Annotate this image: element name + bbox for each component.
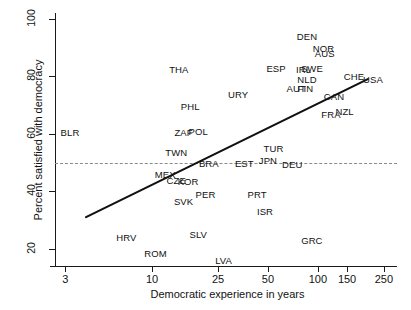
point-label-che: CHE — [344, 71, 364, 82]
x-tick-label-25: 25 — [198, 273, 238, 285]
point-label-svk: SVK — [174, 196, 193, 207]
x-tick-250 — [384, 266, 385, 272]
scatter-plot-figure: Percent satisfied with democracy Democra… — [0, 0, 411, 310]
y-tick-label-80: 80 — [25, 60, 37, 90]
point-label-tur: TUR — [264, 143, 284, 154]
point-label-nzl: NZL — [336, 105, 354, 116]
point-label-twn: TWN — [165, 147, 187, 158]
x-tick-100 — [318, 266, 319, 272]
y-tick-label-100: 100 — [25, 3, 37, 33]
point-label-fin: FIN — [298, 82, 314, 93]
regression-fit-line — [0, 0, 411, 310]
point-label-pol: POL — [189, 125, 208, 136]
y-tick-label-40: 40 — [25, 175, 37, 205]
x-axis-line — [50, 266, 397, 267]
y-axis-line — [55, 13, 56, 266]
y-tick-label-wrap: 20 — [16, 242, 46, 256]
point-label-deu: DEU — [282, 158, 302, 169]
point-label-lva: LVA — [215, 255, 232, 266]
point-label-swe: SWE — [301, 62, 323, 73]
point-label-blr: BLR — [61, 127, 80, 138]
y-tick-100 — [49, 19, 55, 20]
y-tick-label-wrap: 40 — [16, 184, 46, 198]
y-tick-label-wrap: 100 — [16, 12, 46, 26]
x-tick-25 — [218, 266, 219, 272]
x-tick-label-150: 150 — [327, 273, 367, 285]
point-label-slv: SLV — [189, 229, 207, 240]
x-tick-label-3: 3 — [45, 273, 85, 285]
point-label-kor: KOR — [178, 176, 199, 187]
x-tick-150 — [347, 266, 348, 272]
y-tick-80 — [49, 76, 55, 77]
point-label-aus: AUS — [315, 48, 335, 59]
y-tick-20 — [49, 249, 55, 250]
point-label-can: CAN — [324, 91, 344, 102]
point-label-rom: ROM — [144, 248, 166, 259]
point-label-jpn: JPN — [259, 154, 277, 165]
y-tick-label-wrap: 60 — [16, 127, 46, 141]
x-tick-label-250: 250 — [364, 273, 404, 285]
y-tick-label-wrap: 80 — [16, 69, 46, 83]
y-tick-label-20: 20 — [25, 233, 37, 263]
point-label-prt: PRT — [248, 189, 267, 200]
point-label-per: PER — [196, 189, 216, 200]
point-label-den: DEN — [297, 31, 317, 42]
x-tick-3 — [65, 266, 66, 272]
point-label-esp: ESP — [266, 62, 285, 73]
reference-line-50-percent — [55, 163, 397, 164]
point-label-grc: GRC — [301, 235, 322, 246]
y-tick-40 — [49, 191, 55, 192]
point-label-usa: USA — [363, 74, 383, 85]
x-tick-label-10: 10 — [132, 273, 172, 285]
point-label-est: EST — [235, 157, 254, 168]
point-label-isr: ISR — [257, 206, 273, 217]
y-tick-60 — [49, 134, 55, 135]
point-label-ury: URY — [228, 88, 248, 99]
x-tick-10 — [152, 266, 153, 272]
x-tick-50 — [268, 266, 269, 272]
x-tick-label-50: 50 — [248, 273, 288, 285]
point-label-tha: THA — [169, 64, 188, 75]
point-label-hrv: HRV — [116, 232, 136, 243]
point-label-bra: BRA — [199, 157, 219, 168]
y-tick-label-60: 60 — [25, 118, 37, 148]
point-label-phl: PHL — [181, 101, 200, 112]
x-axis-title: Democratic experience in years — [55, 288, 400, 300]
